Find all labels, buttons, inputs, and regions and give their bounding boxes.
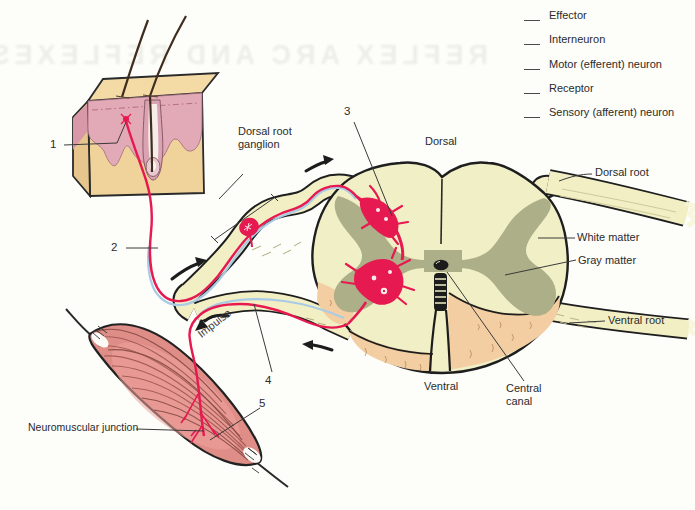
label-neuromuscular-junction: Neuromuscular junction (28, 421, 138, 434)
legend-row-sensory-neuron: Sensory (afferent) neuron (524, 106, 674, 118)
leader-4 (254, 304, 272, 372)
central-canal-shape (434, 260, 449, 270)
marker-2: 2 (111, 241, 117, 253)
label-ventral-root: Ventral root (608, 314, 664, 327)
marker-4: 4 (265, 374, 271, 386)
legend-label: Receptor (549, 82, 594, 94)
label-ventral: Ventral (424, 380, 458, 393)
label-dorsal-root-ganglion: Dorsal root ganglion (238, 125, 298, 151)
label-gray-matter: Gray matter (578, 254, 636, 267)
arrow-sensory-upper (306, 155, 334, 171)
reflex-arc-figure: REFLEX ARC AND REFLEXES (0, 0, 695, 510)
marker-3: 3 (344, 105, 350, 117)
marker-1: 1 (50, 138, 56, 150)
answer-blank (524, 34, 540, 45)
legend-row-interneuron: Interneuron (524, 33, 605, 45)
dorsal-median-sulcus (441, 179, 442, 244)
label-dorsal-root: Dorsal root (595, 166, 649, 179)
legend-row-receptor: Receptor (524, 82, 594, 94)
skin-block (73, 16, 218, 196)
legend-label: Effector (549, 9, 587, 21)
legend-label: Motor (efferent) neuron (549, 58, 662, 70)
answer-blank (524, 83, 540, 94)
answer-blank (524, 10, 540, 21)
label-white-matter: White matter (577, 231, 639, 244)
label-dorsal: Dorsal (425, 135, 457, 148)
legend-row-motor-neuron: Motor (efferent) neuron (524, 58, 662, 70)
leader-ganglion-label (219, 174, 243, 199)
muscle (66, 309, 288, 487)
legend-row-effector: Effector (524, 9, 587, 21)
label-central-canal: Central canal (506, 382, 558, 408)
answer-blank (524, 107, 540, 118)
answer-blank (524, 59, 540, 70)
marker-5: 5 (259, 397, 265, 409)
legend-label: Sensory (afferent) neuron (549, 106, 674, 118)
arrow-ventral (302, 340, 332, 350)
legend-label: Interneuron (549, 33, 605, 45)
